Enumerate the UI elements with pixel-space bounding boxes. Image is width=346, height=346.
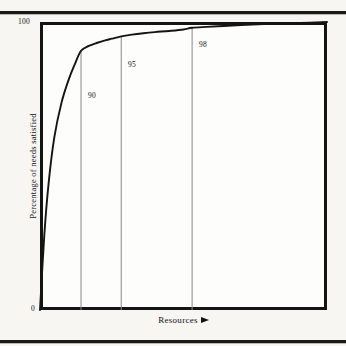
marker-label-98: 98: [199, 40, 207, 49]
x-axis-title: Resources: [158, 315, 198, 325]
plot-canvas: [40, 22, 327, 310]
marker-lines-group: [81, 28, 192, 310]
page-rule-bottom: [0, 340, 346, 343]
page-rule-top: [0, 11, 346, 14]
figure-diminishing-returns: 100 0 Percentage of needs satisfied Reso…: [0, 0, 346, 346]
y-axis-min-label: 0: [31, 304, 35, 313]
right-arrow-icon: [201, 317, 209, 323]
x-axis-title-group: Resources: [40, 315, 327, 325]
marker-label-90: 90: [88, 91, 96, 100]
curve-line: [40, 22, 327, 310]
y-axis-max-label: 100: [18, 17, 30, 26]
y-axis-title: Percentage of needs satisfied: [28, 86, 38, 246]
marker-label-95: 95: [128, 60, 136, 69]
